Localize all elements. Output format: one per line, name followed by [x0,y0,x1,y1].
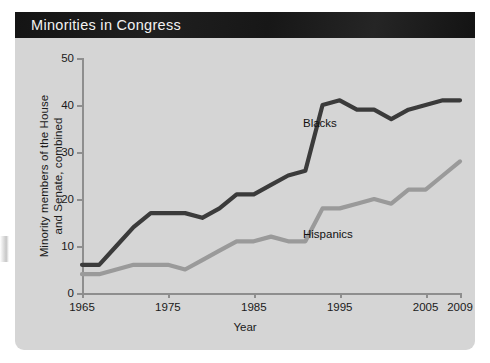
chart-panel: Minority members of the House and Senate… [15,38,475,350]
series-lines [15,38,475,350]
series-label-hispanics: Hispanics [303,228,353,240]
line-series-blacks [82,100,460,264]
line-series-hispanics [82,161,460,274]
scan-edge-artifact [0,236,9,262]
series-label-blacks: Blacks [303,117,337,129]
chart-title-banner: Minorities in Congress [15,12,475,38]
figure-container: Minorities in Congress Minority members … [0,0,490,363]
